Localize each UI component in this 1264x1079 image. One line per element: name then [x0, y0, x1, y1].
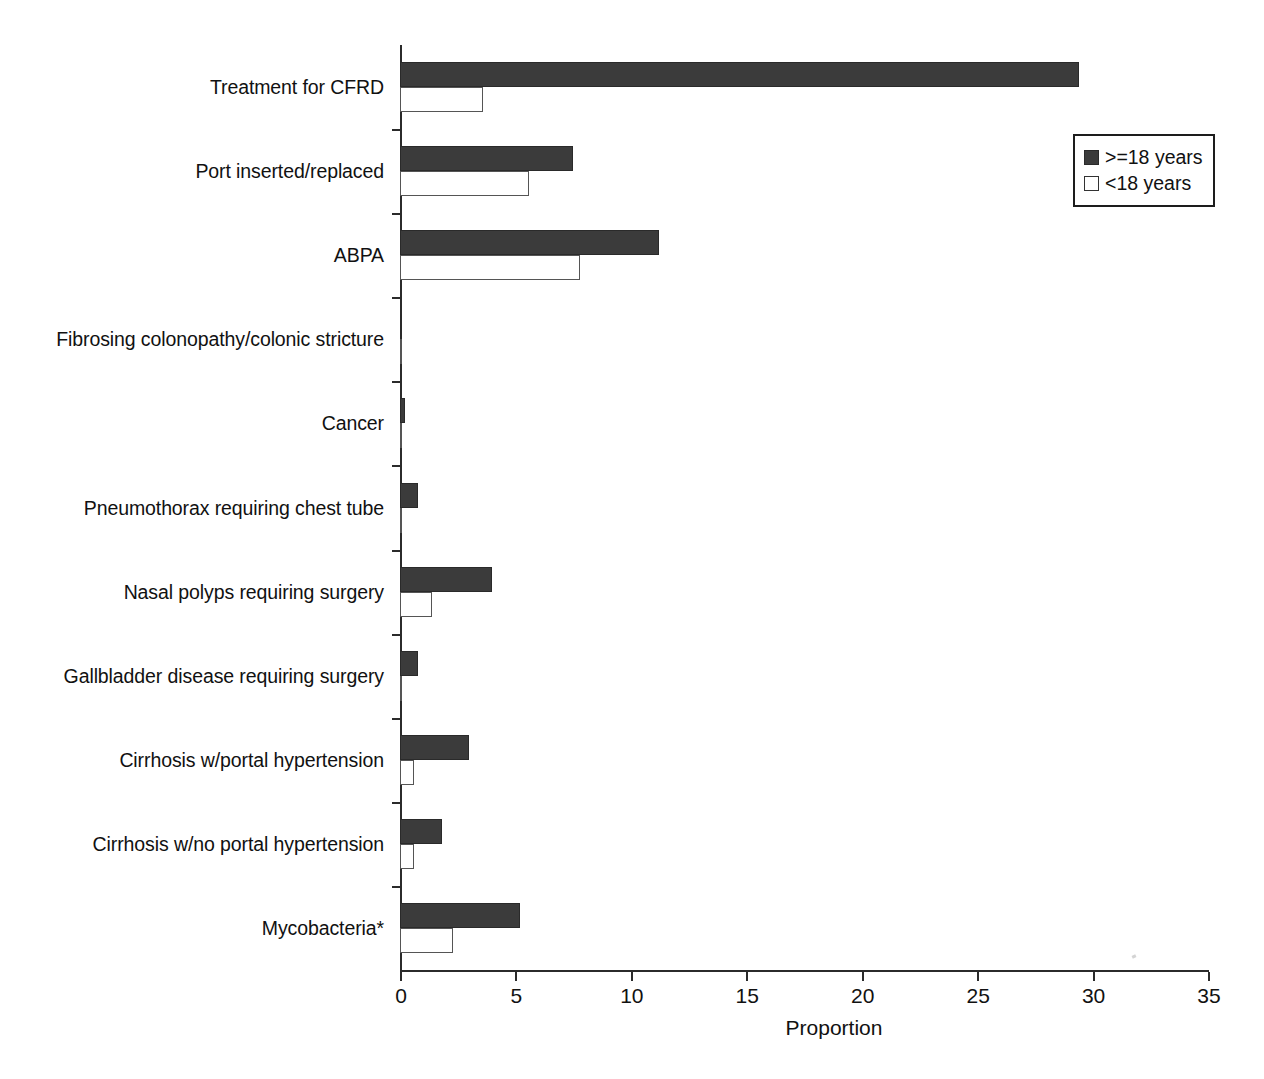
legend-label-child: <18 years [1105, 172, 1191, 195]
bar-child [400, 255, 580, 280]
y-axis-tick [392, 802, 401, 804]
x-axis-line [400, 970, 1209, 972]
bar-adult [400, 398, 405, 423]
category-label: Gallbladder disease requiring surgery [64, 664, 384, 687]
figure-container: Treatment for CFRDPort inserted/replaced… [0, 0, 1264, 1079]
category-label: Port inserted/replaced [195, 160, 384, 183]
y-axis-tick [392, 550, 401, 552]
category-label: ABPA [334, 244, 384, 267]
bar-child [400, 592, 432, 617]
bar-child [400, 508, 402, 533]
x-axis-title-text: Proportion [786, 1016, 883, 1040]
y-axis-tick [392, 465, 401, 467]
category-label: Cancer [322, 412, 384, 435]
x-axis-tick [862, 972, 864, 981]
x-axis-tick [400, 972, 402, 981]
x-axis-tick [1208, 972, 1210, 981]
bar-adult [400, 819, 442, 844]
bar-child [400, 339, 402, 364]
x-axis-tick-label: 20 [851, 984, 874, 1008]
bar-adult [400, 230, 659, 255]
legend-label-adult: >=18 years [1105, 146, 1203, 169]
bar-child [400, 844, 414, 869]
x-axis-tick-label: 35 [1197, 984, 1220, 1008]
y-axis-tick [392, 129, 401, 131]
category-label: Treatment for CFRD [210, 76, 384, 99]
x-axis-tick [631, 972, 633, 981]
x-axis-tick-label: 10 [620, 984, 643, 1008]
bar-child [400, 928, 453, 953]
category-label: Pneumothorax requiring chest tube [84, 496, 384, 519]
y-axis-tick [392, 634, 401, 636]
bar-adult [400, 651, 418, 676]
legend-item-adult[interactable]: >=18 years [1084, 144, 1204, 170]
category-label: Nasal polyps requiring surgery [124, 580, 384, 603]
y-axis-tick [392, 886, 401, 888]
bar-adult [400, 903, 520, 928]
x-axis-tick [746, 972, 748, 981]
x-axis-tick [977, 972, 979, 981]
cut-off-caption [0, 1066, 1264, 1079]
y-axis-tick [392, 718, 401, 720]
category-axis-labels: Treatment for CFRDPort inserted/replaced… [0, 45, 392, 970]
bar-adult [400, 567, 492, 592]
legend: >=18 years <18 years [1073, 134, 1215, 207]
bar-child [400, 171, 529, 196]
category-label: Fibrosing colonopathy/colonic stricture [56, 328, 384, 351]
bar-child [400, 676, 402, 701]
bar-adult [400, 62, 1079, 87]
bar-child [400, 87, 483, 112]
x-axis-tick [1093, 972, 1095, 981]
x-axis-tick-label: 25 [966, 984, 989, 1008]
x-axis-tick-label: 0 [395, 984, 407, 1008]
x-axis-tick-label: 5 [511, 984, 523, 1008]
legend-swatch-open-white-square [1084, 176, 1099, 191]
category-label: Cirrhosis w/no portal hypertension [93, 832, 384, 855]
y-axis-tick [392, 297, 401, 299]
y-axis-tick [392, 213, 401, 215]
legend-swatch-filled-dark-square [1084, 150, 1099, 165]
x-axis-tick [515, 972, 517, 981]
x-axis-tick-label: 30 [1082, 984, 1105, 1008]
category-label: Cirrhosis w/portal hypertension [119, 748, 384, 771]
legend-item-child[interactable]: <18 years [1084, 170, 1204, 196]
x-axis-tick-label: 15 [736, 984, 759, 1008]
bar-adult [400, 146, 573, 171]
y-axis-tick [392, 381, 401, 383]
bar-adult [400, 483, 418, 508]
bar-child [400, 760, 414, 785]
bar-adult [400, 314, 402, 339]
bar-child [400, 423, 402, 448]
bar-adult [400, 735, 469, 760]
x-axis-title: Proportion [0, 1016, 1264, 1040]
category-label: Mycobacteria* [262, 916, 384, 939]
